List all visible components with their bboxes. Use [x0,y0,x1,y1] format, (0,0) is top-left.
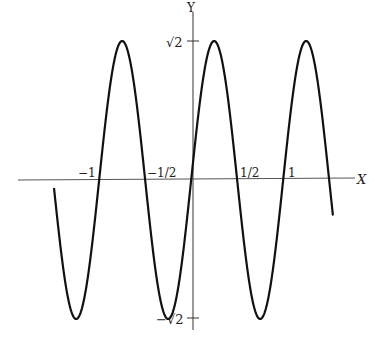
sine-wave-figure: X Y √2 −√2 −1 −1/2 1/2 1 [0,0,374,339]
y-axis-label: Y [186,1,196,15]
x-axis-label: X [356,172,367,187]
x-tick-label-neg-half: −1/2 [147,166,176,180]
x-tick-label-1: 1 [288,166,296,180]
x-axis [18,178,355,180]
chart-svg: X Y √2 −√2 −1 −1/2 1/2 1 [0,0,374,339]
x-tick-label-half: 1/2 [240,166,259,180]
x-tick-label-neg1: −1 [78,166,96,180]
x-tick-labels: −1 −1/2 1/2 1 [78,166,296,180]
y-tick-label-sqrt2: √2 [166,35,183,50]
